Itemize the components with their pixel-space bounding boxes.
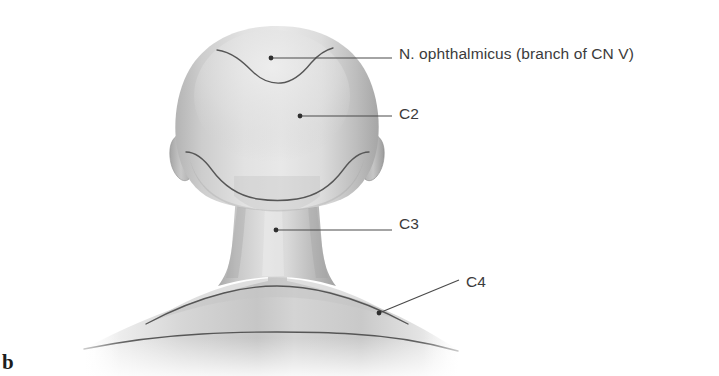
label-c4: C4: [466, 274, 486, 290]
label-c2: C2: [399, 106, 419, 122]
fade-bottom: [60, 338, 486, 376]
label-n-ophthalmicus: N. ophthalmicus (branch of CN V): [399, 46, 634, 62]
figure-letter: b: [2, 352, 14, 373]
label-c3: C3: [399, 216, 419, 232]
anatomical-figure: N. ophthalmicus (branch of CN V) C2 C3 C…: [0, 0, 719, 376]
